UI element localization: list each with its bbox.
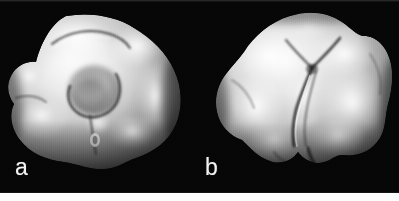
figure-plate: a b — [0, 0, 399, 193]
specimen-rendering-b — [212, 10, 397, 185]
panel-label-b: b — [205, 156, 218, 179]
specimen-b-body — [212, 10, 397, 185]
plate-top-edge — [0, 0, 399, 2]
panel-label-a: a — [15, 156, 28, 179]
specimen-rendering-a — [6, 12, 196, 182]
specimen-a-surface — [6, 12, 196, 182]
figure-root: a b — [0, 0, 399, 201]
specimen-a-body — [6, 15, 196, 183]
specimen-b-surface — [212, 10, 397, 185]
page-background-below-plate — [0, 193, 399, 201]
